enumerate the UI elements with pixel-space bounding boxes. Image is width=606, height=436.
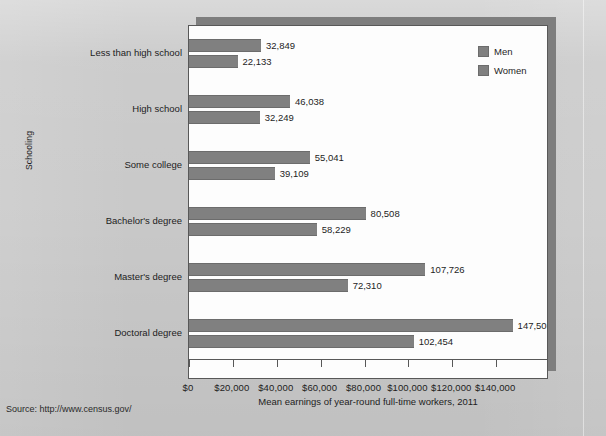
x-axis-tick <box>496 360 497 367</box>
x-axis-title: Mean earnings of year-round full-time wo… <box>188 396 548 407</box>
x-axis-tick-label: $80,000 <box>346 382 381 393</box>
x-axis-tick-label: $120,000 <box>431 382 471 393</box>
category-label: Doctoral degree <box>114 327 182 339</box>
category-label: Less than high school <box>90 47 182 59</box>
legend-swatch-women <box>478 65 489 76</box>
x-axis-tick-label: $40,000 <box>258 382 293 393</box>
bar-women <box>189 111 260 124</box>
x-axis-tick <box>233 360 234 367</box>
bar-men <box>189 95 290 108</box>
legend-swatch-men <box>478 46 489 57</box>
bar-women <box>189 55 238 68</box>
category-label: Some college <box>124 159 182 171</box>
bar-group: 55,04139,109 <box>189 151 547 180</box>
x-axis-tick-label: $0 <box>183 382 194 393</box>
legend-item-women: Women <box>478 63 527 78</box>
x-axis-tick-label: $20,000 <box>214 382 249 393</box>
legend-item-men: Men <box>478 44 527 59</box>
bar-value-label: 46,038 <box>295 95 324 108</box>
bar-men <box>189 151 310 164</box>
bar-value-label: 22,133 <box>243 55 272 68</box>
bar-value-label: 80,508 <box>371 207 400 220</box>
bar-men <box>189 39 261 52</box>
bar-value-label: 58,229 <box>322 223 351 236</box>
bar-men <box>189 207 366 220</box>
x-axis-tick <box>277 360 278 367</box>
legend-label-women: Women <box>494 65 527 76</box>
bar-men <box>189 263 425 276</box>
category-label: High school <box>132 103 182 115</box>
bar-group: 80,50858,229 <box>189 207 547 236</box>
bar-women <box>189 167 275 180</box>
bar-value-label: 72,310 <box>353 279 382 292</box>
chart-legend: Men Women <box>478 44 527 82</box>
x-axis-line <box>189 359 547 360</box>
x-axis-tick <box>365 360 366 367</box>
source-caption: Source: http://www.census.gov/ <box>6 404 132 414</box>
bar-value-label: 107,726 <box>430 263 464 276</box>
bar-value-label: 32,249 <box>265 111 294 124</box>
category-label: Master's degree <box>114 271 182 283</box>
bar-group: 46,03832,249 <box>189 95 547 124</box>
x-axis-tick <box>452 360 453 367</box>
bar-value-label: 39,109 <box>280 167 309 180</box>
x-axis-tick <box>408 360 409 367</box>
category-label: Bachelor's degree <box>106 215 182 227</box>
bar-group: 147,508102,454 <box>189 319 547 348</box>
legend-label-men: Men <box>494 46 512 57</box>
x-axis-tick <box>189 360 190 367</box>
x-axis-tick-label: $100,000 <box>387 382 427 393</box>
bar-value-label: 102,454 <box>419 335 453 348</box>
y-axis-title: Schooling <box>24 131 34 170</box>
category-axis-labels: Less than high schoolHigh schoolSome col… <box>0 25 182 379</box>
x-axis-tick <box>321 360 322 367</box>
x-axis-tick-label: $60,000 <box>302 382 337 393</box>
bar-women <box>189 223 317 236</box>
bar-women <box>189 279 348 292</box>
x-axis-tick-label: $140,000 <box>475 382 515 393</box>
bar-men <box>189 319 513 332</box>
bar-group: 107,72672,310 <box>189 263 547 292</box>
chart-figure: 32,84922,13346,03832,24955,04139,10980,5… <box>0 0 606 436</box>
bar-value-label: 55,041 <box>315 151 344 164</box>
bar-value-label: 147,508 <box>518 319 547 332</box>
bar-value-label: 32,849 <box>266 39 295 52</box>
bar-women <box>189 335 414 348</box>
